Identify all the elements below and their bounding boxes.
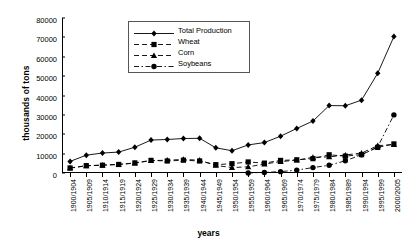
y-axis-tick-label: 60000	[36, 56, 62, 64]
series-soybeans	[245, 112, 396, 176]
x-axis-tick-label: 1910/1914	[102, 179, 109, 212]
data-point	[262, 140, 267, 146]
data-point	[100, 150, 105, 156]
y-axis-tick-label: 0	[53, 172, 62, 180]
x-axis-tick-mark	[216, 173, 217, 177]
data-point	[229, 148, 234, 154]
legend-key-swatch	[132, 58, 176, 69]
data-point	[326, 163, 331, 168]
y-axis-tick-label: 80000	[36, 17, 62, 25]
x-axis-tick-label: 1980/1984	[329, 179, 336, 212]
x-axis-tick-label: 1925/1929	[151, 179, 158, 212]
x-axis-tick-label: 1965/1969	[281, 179, 288, 212]
x-axis-tick-label: 1920/1924	[135, 179, 142, 212]
data-point	[278, 169, 283, 174]
series-corn	[67, 141, 397, 170]
y-axis-tick: 40000	[36, 87, 62, 105]
data-point	[375, 144, 380, 149]
data-point	[197, 135, 202, 141]
data-point	[294, 167, 299, 172]
y-axis-tick-label: 20000	[36, 133, 62, 141]
x-axis-tick-label: 1990/1994	[362, 179, 369, 212]
x-axis-tick-label: 1900/1904	[70, 179, 77, 212]
y-axis-title: thousands of tons	[21, 33, 31, 173]
x-axis-tick-label: 1955/1959	[248, 179, 255, 212]
y-axis-tick: 60000	[36, 48, 62, 66]
y-axis-tick: 20000	[36, 125, 62, 143]
data-point	[116, 149, 121, 155]
y-axis-tick: 10000	[36, 145, 62, 163]
legend-item-wheat[interactable]: Wheat	[132, 36, 245, 47]
legend-item-total-production[interactable]: Total Production	[132, 25, 245, 36]
y-axis-tick-label: 50000	[36, 75, 62, 83]
x-axis-tick-label: 1945/1949	[216, 179, 223, 212]
data-point	[343, 103, 348, 109]
x-axis-tick-label: 1960/1964	[264, 179, 271, 212]
x-axis-tick-mark	[119, 173, 120, 177]
y-axis-tick: 50000	[36, 67, 62, 85]
data-point	[245, 170, 250, 175]
data-point	[359, 97, 364, 103]
data-point	[213, 145, 218, 151]
data-point	[278, 133, 283, 139]
x-axis-tick-mark	[329, 173, 330, 177]
data-point	[181, 136, 186, 142]
y-axis-tick-label: 70000	[36, 36, 62, 44]
legend-item-label: Soybeans	[176, 60, 211, 68]
x-axis-tick-mark	[200, 173, 201, 177]
x-axis-tick-label: 1915/1919	[119, 179, 126, 212]
x-axis-tick-mark	[345, 173, 346, 177]
x-axis-tick-label: 1930/1934	[167, 179, 174, 212]
legend-key-swatch	[132, 25, 176, 36]
legend-key-swatch	[132, 36, 176, 47]
y-axis-tick: 70000	[36, 28, 62, 46]
y-axis-tick-label: 10000	[36, 153, 62, 161]
x-axis-tick-mark	[135, 173, 136, 177]
x-axis-tick-label: 1970/1974	[297, 179, 304, 212]
x-axis-tick-label: 1940/1944	[200, 179, 207, 212]
x-axis-tick-mark	[167, 173, 168, 177]
data-point	[262, 170, 267, 175]
x-axis-tick-mark	[151, 173, 152, 177]
data-point	[294, 125, 299, 131]
data-point	[375, 70, 380, 76]
data-point	[67, 158, 72, 164]
data-point	[84, 152, 89, 158]
legend-item-corn[interactable]: Corn	[132, 47, 245, 58]
legend-item-label: Corn	[176, 49, 194, 57]
data-point	[148, 137, 153, 143]
chart-legend: Total ProductionWheatCornSoybeans	[128, 21, 250, 73]
y-axis-tick: 80000	[36, 9, 62, 27]
data-point	[245, 142, 250, 148]
production-line-chart: thousands of tons 0100002000030000400005…	[0, 0, 417, 247]
x-axis-tick-mark	[297, 173, 298, 177]
x-axis-tick-mark	[313, 173, 314, 177]
data-point	[151, 64, 156, 69]
data-point	[310, 165, 315, 170]
x-axis-tick-mark	[86, 173, 87, 177]
y-axis-tick-label: 30000	[36, 114, 62, 122]
x-axis-tick-mark	[232, 173, 233, 177]
x-axis-title: years	[0, 228, 417, 238]
data-point	[391, 34, 396, 40]
x-axis-tick-label: 1905/1909	[86, 179, 93, 212]
legend-item-label: Wheat	[176, 38, 200, 46]
x-axis-tick-label: 1985/1989	[345, 179, 352, 212]
data-point	[132, 144, 137, 150]
data-point	[359, 152, 364, 157]
series-line	[248, 115, 394, 173]
x-axis-tick-mark	[183, 173, 184, 177]
y-axis-tick-label: 40000	[36, 95, 62, 103]
x-axis-tick-mark	[70, 173, 71, 177]
x-axis-tick-mark	[378, 173, 379, 177]
x-axis-tick-label: 1950/1954	[232, 179, 239, 212]
legend-item-soybeans[interactable]: Soybeans	[132, 58, 245, 69]
x-axis-tick-label: 2000/2005	[394, 179, 401, 212]
legend-key-swatch	[132, 47, 176, 58]
data-point	[391, 112, 396, 117]
y-axis-tick: 0	[53, 164, 62, 182]
data-point	[165, 136, 170, 142]
x-axis-tick-label: 1975/1979	[313, 179, 320, 212]
legend-item-label: Total Production	[176, 27, 232, 35]
x-axis-tick-mark	[102, 173, 103, 177]
